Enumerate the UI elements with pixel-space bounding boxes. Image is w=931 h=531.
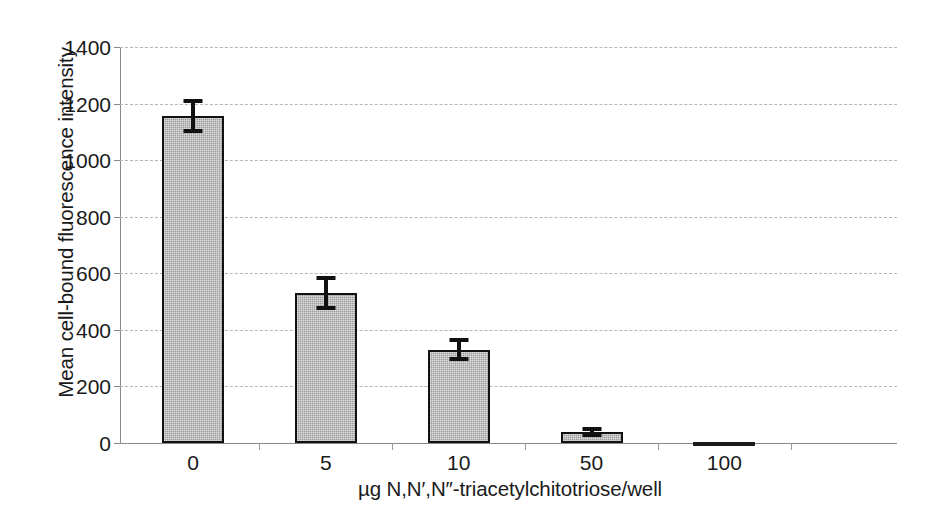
gridline bbox=[120, 47, 897, 48]
error-bar-cap-top bbox=[449, 338, 468, 342]
y-tick-label: 400 bbox=[76, 319, 111, 340]
error-bar-cap-top bbox=[582, 427, 601, 431]
x-tick-mark bbox=[525, 443, 526, 450]
y-tick-mark bbox=[114, 217, 120, 218]
error-bar-cap-top bbox=[316, 276, 335, 280]
plot-area: 0200400600800100012001400 051050100 bbox=[120, 47, 897, 443]
error-bar-cap-bottom bbox=[184, 129, 203, 133]
gridline bbox=[120, 330, 897, 331]
y-tick-label: 200 bbox=[76, 376, 111, 397]
gridline bbox=[120, 160, 897, 161]
bar-chart-figure: Mean cell-bound fluorescence intensity 0… bbox=[0, 0, 931, 531]
error-bar-cap-bottom bbox=[316, 306, 335, 310]
error-bar-cap-bottom bbox=[449, 357, 468, 361]
y-tick-mark bbox=[114, 330, 120, 331]
gridline bbox=[120, 104, 897, 105]
error-bar bbox=[582, 427, 602, 437]
error-bar-cap-bottom bbox=[582, 433, 601, 437]
x-tick-label: 50 bbox=[580, 451, 603, 475]
gridline bbox=[120, 273, 897, 274]
x-axis-title: µg N,N′,N″-triacetylchitotriose/well bbox=[120, 477, 900, 501]
y-tick-label: 1400 bbox=[64, 37, 111, 58]
gridline bbox=[120, 386, 897, 387]
y-axis-line bbox=[120, 47, 121, 443]
x-tick-label: 5 bbox=[320, 451, 332, 475]
bar bbox=[428, 350, 490, 443]
y-tick-mark bbox=[114, 47, 120, 48]
x-tick-label: 0 bbox=[187, 451, 199, 475]
x-tick-mark bbox=[658, 443, 659, 450]
y-tick-label: 0 bbox=[99, 433, 111, 454]
x-tick-mark bbox=[791, 443, 792, 450]
bar bbox=[693, 442, 755, 446]
y-tick-mark bbox=[114, 273, 120, 274]
error-bar bbox=[183, 99, 203, 133]
gridline bbox=[120, 217, 897, 218]
y-tick-label: 1200 bbox=[64, 93, 111, 114]
error-bar bbox=[316, 276, 336, 310]
y-tick-mark bbox=[114, 443, 120, 444]
error-bar bbox=[449, 338, 469, 361]
y-tick-mark bbox=[114, 386, 120, 387]
y-tick-mark bbox=[114, 104, 120, 105]
gridline bbox=[120, 443, 897, 444]
y-tick-label: 1000 bbox=[64, 150, 111, 171]
bar bbox=[295, 293, 357, 443]
error-bar-stem bbox=[324, 276, 328, 310]
x-tick-mark bbox=[392, 443, 393, 450]
error-bar-stem bbox=[191, 99, 195, 133]
x-tick-label: 10 bbox=[447, 451, 470, 475]
y-tick-mark bbox=[114, 160, 120, 161]
y-tick-label: 800 bbox=[76, 206, 111, 227]
x-tick-mark bbox=[259, 443, 260, 450]
x-tick-label: 100 bbox=[707, 451, 742, 475]
bar bbox=[162, 116, 224, 443]
y-tick-label: 600 bbox=[76, 263, 111, 284]
error-bar-cap-top bbox=[184, 99, 203, 103]
